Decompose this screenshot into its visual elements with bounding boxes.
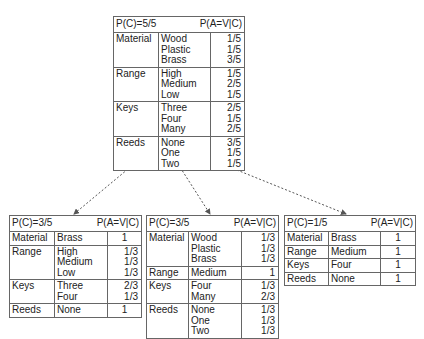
attribute-values: ThreeFourMany — [159, 102, 211, 136]
attribute-group: ReedsNone1 — [10, 304, 141, 317]
attribute-values: Medium — [329, 246, 381, 259]
left-table: P(C)=3/5P(A=V|C)MaterialBrass1RangeHighM… — [9, 215, 142, 318]
probabilities: 1 — [381, 259, 415, 272]
conditional-label: P(A=V|C) — [234, 218, 276, 229]
value-cell: Medium — [57, 257, 105, 268]
attribute-values: HighMediumLow — [55, 246, 108, 280]
attribute-group: KeysThreeFourMany2/51/52/5 — [114, 102, 244, 137]
attribute-group: KeysThreeFour2/31/3 — [10, 280, 141, 304]
attribute-values: WoodPlasticBrass — [189, 232, 242, 266]
attribute-values: Brass — [329, 232, 381, 245]
value-cell: Brass — [331, 233, 378, 244]
middle-table: P(C)=3/5P(A=V|C)MaterialWoodPlasticBrass… — [146, 215, 279, 339]
arrow-to-right — [222, 164, 346, 214]
value-cell: Low — [161, 90, 208, 101]
probability-cell: 2/5 — [214, 124, 241, 135]
value-cell: Four — [57, 292, 105, 303]
attribute-group: MaterialWoodPlasticBrass1/31/31/3 — [147, 232, 278, 267]
probability-cell: 1/3 — [245, 281, 275, 292]
attribute-group: ReedsNone1 — [285, 273, 415, 286]
probabilities: 1/31/31/3 — [242, 232, 278, 266]
probabilities: 1 — [242, 267, 278, 280]
probability-cell: 1/3 — [245, 254, 275, 265]
probability-cell: 2/3 — [245, 292, 275, 303]
probabilities: 1/31/31/3 — [242, 304, 278, 338]
attribute-values: WoodPlasticBrass — [159, 33, 211, 67]
probability-cell: 2/5 — [214, 103, 241, 114]
attribute-name: Range — [147, 267, 189, 280]
attribute-group: RangeMedium1 — [147, 267, 278, 281]
table-header: P(C)=3/5P(A=V|C) — [147, 216, 278, 232]
attribute-values: HighMediumLow — [159, 68, 211, 102]
attribute-name: Range — [114, 68, 159, 102]
attribute-group: RangeMedium1 — [285, 246, 415, 260]
value-cell: Many — [161, 124, 208, 135]
value-cell: Medium — [331, 247, 378, 258]
probability-cell: 1 — [384, 260, 412, 271]
probabilities: 1/31/31/3 — [108, 246, 141, 280]
attribute-name: Range — [285, 246, 329, 259]
attribute-group: KeysFourMany1/32/3 — [147, 280, 278, 304]
value-cell: None — [191, 305, 239, 316]
attribute-values: None — [329, 273, 381, 286]
table-header: P(C)=5/5P(A=V|C) — [114, 17, 244, 33]
attribute-values: Brass — [55, 232, 108, 245]
value-cell: Wood — [161, 34, 208, 45]
probability-cell: 1 — [384, 274, 412, 285]
probability-cell: 1 — [245, 268, 275, 279]
attribute-name: Range — [10, 246, 55, 280]
attribute-name: Material — [285, 232, 329, 245]
attribute-name: Reeds — [285, 273, 329, 286]
attribute-values: Medium — [189, 267, 242, 280]
attribute-group: KeysFour1 — [285, 259, 415, 273]
probability-cell: 1/5 — [214, 159, 241, 170]
attribute-values: ThreeFour — [55, 280, 108, 303]
probabilities: 2/31/3 — [108, 280, 141, 303]
probabilities: 1/52/51/5 — [211, 68, 244, 102]
probabilities: 1 — [381, 246, 415, 259]
probability-cell: 2/5 — [214, 79, 241, 90]
attribute-group: MaterialBrass1 — [10, 232, 141, 246]
attribute-group: RangeHighMediumLow1/31/31/3 — [10, 246, 141, 281]
arrow-to-left — [74, 164, 134, 214]
probabilities: 1 — [108, 304, 141, 317]
attribute-name: Keys — [10, 280, 55, 303]
probability-cell: 1/3 — [245, 305, 275, 316]
attribute-name: Keys — [114, 102, 159, 136]
attribute-values: NoneOneTwo — [159, 137, 211, 171]
table-header: P(C)=1/5P(A=V|C) — [285, 216, 415, 232]
probabilities: 1 — [381, 273, 415, 286]
value-cell: Three — [161, 103, 208, 114]
probability-cell: 1/5 — [214, 90, 241, 101]
probability-cell: 1/3 — [245, 233, 275, 244]
attribute-name: Material — [10, 232, 55, 245]
attribute-name: Material — [114, 33, 159, 67]
value-cell: Many — [191, 292, 239, 303]
prior-label: P(C)=1/5 — [287, 218, 327, 229]
attribute-name: Keys — [285, 259, 329, 272]
attribute-values: FourMany — [189, 280, 242, 303]
attribute-name: Reeds — [10, 304, 55, 317]
prior-label: P(C)=3/5 — [149, 218, 189, 229]
value-cell: Brass — [191, 254, 239, 265]
value-cell: Medium — [191, 268, 239, 279]
probabilities: 1/51/53/5 — [211, 33, 244, 67]
attribute-name: Reeds — [147, 304, 189, 338]
probabilities: 1 — [381, 232, 415, 245]
probability-cell: 1/5 — [214, 34, 241, 45]
probability-cell: 1 — [384, 247, 412, 258]
value-cell: None — [331, 274, 378, 285]
probability-cell: 3/5 — [214, 55, 241, 66]
conditional-label: P(A=V|C) — [200, 19, 242, 30]
prior-label: P(C)=3/5 — [12, 218, 52, 229]
probabilities: 2/51/52/5 — [211, 102, 244, 136]
probability-cell: 1/3 — [111, 292, 138, 303]
attribute-name: Reeds — [114, 137, 159, 171]
value-cell: None — [57, 305, 105, 316]
attribute-name: Material — [147, 232, 189, 266]
attribute-values: Four — [329, 259, 381, 272]
probability-cell: 1/3 — [245, 326, 275, 337]
value-cell: Brass — [57, 233, 105, 244]
value-cell: Two — [161, 159, 208, 170]
probability-cell: 1/5 — [214, 148, 241, 159]
